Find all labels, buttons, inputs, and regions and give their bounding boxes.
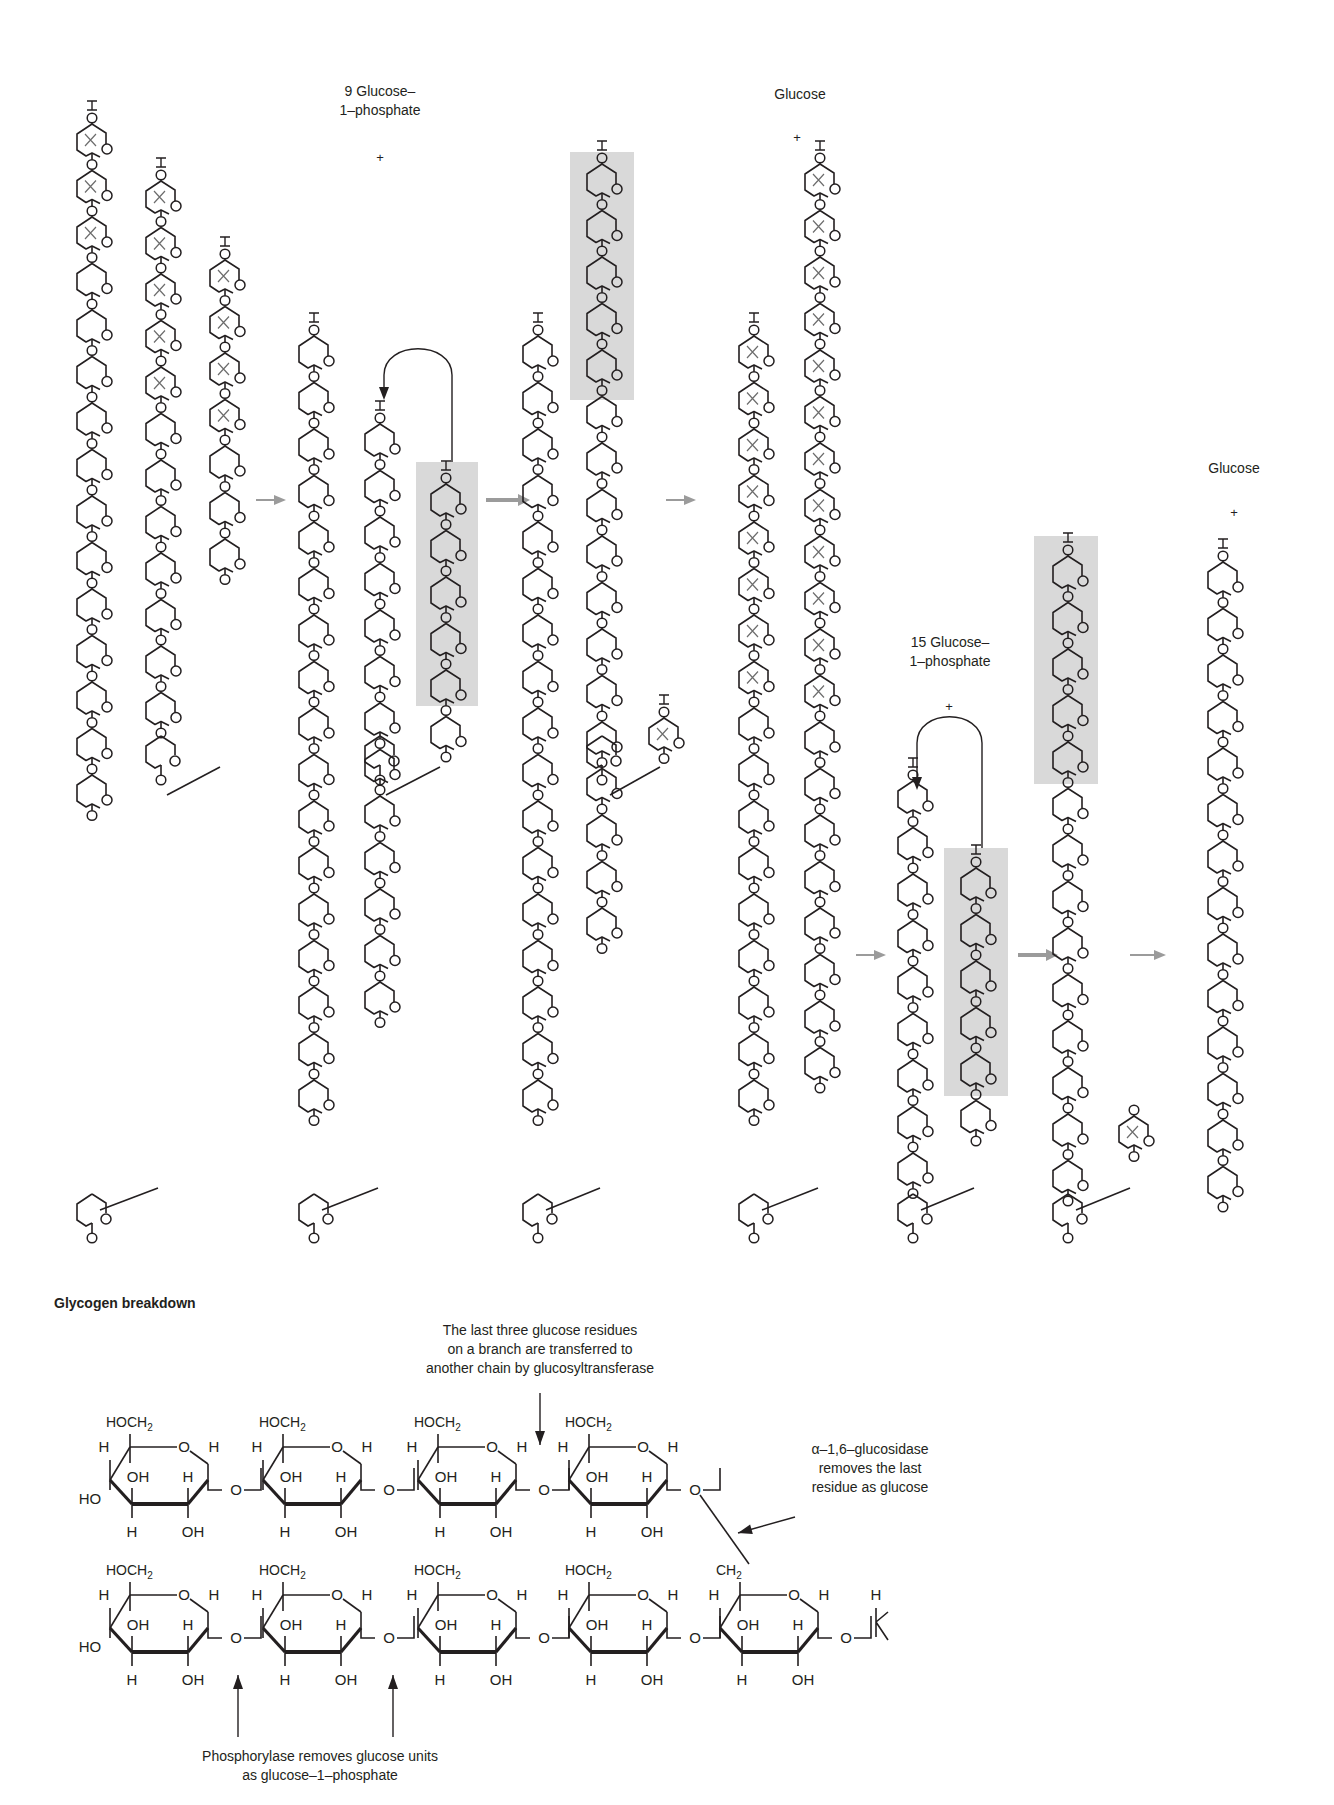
ring-bond bbox=[820, 211, 834, 231]
glucose-unit bbox=[739, 708, 774, 741]
glycosidic-oxygen bbox=[815, 339, 825, 349]
alpha-1-6-branch-bond bbox=[546, 1188, 600, 1210]
ring-oxygen bbox=[1233, 629, 1243, 639]
glycosidic-oxygen bbox=[309, 976, 319, 986]
glycosidic-oxygen bbox=[375, 553, 385, 563]
ring-oxygen bbox=[171, 480, 181, 490]
ring-bond bbox=[314, 476, 328, 496]
glucose-unit bbox=[523, 476, 558, 509]
ring-bond bbox=[739, 429, 762, 462]
oh-label: OH bbox=[435, 1616, 458, 1633]
ring-oxygen-label: O bbox=[486, 1586, 498, 1603]
ring-oxygen-label: O bbox=[178, 1438, 190, 1455]
annotation-line: as glucose–1–phosphate bbox=[160, 1766, 480, 1785]
glycosidic-oxygen bbox=[533, 930, 543, 940]
h-label: H bbox=[668, 1438, 679, 1455]
glycosidic-oxygen bbox=[597, 944, 607, 954]
ring-bond bbox=[1208, 981, 1231, 1014]
ring-bond bbox=[92, 496, 106, 516]
ring-bond bbox=[314, 1080, 328, 1100]
ring-bond bbox=[1208, 1027, 1231, 1060]
ring-oxygen bbox=[170, 756, 180, 766]
annotation-line: on a branch are transferred to bbox=[390, 1340, 690, 1359]
cross-mark bbox=[85, 227, 96, 239]
cross-mark bbox=[747, 672, 758, 684]
cross-mark bbox=[747, 439, 758, 451]
h-label: H bbox=[435, 1523, 446, 1540]
glucose-unit-marked bbox=[739, 336, 774, 369]
transferred-segment-highlight-1 bbox=[570, 152, 634, 400]
ring-bond bbox=[161, 414, 175, 434]
glucose-unit bbox=[587, 629, 622, 662]
ring-bond bbox=[146, 367, 169, 400]
ring-bond bbox=[898, 1153, 921, 1186]
ring-bond bbox=[1208, 748, 1231, 781]
glycosidic-oxygen bbox=[597, 572, 607, 582]
ring-bond bbox=[299, 755, 322, 788]
glycosidic-oxygen bbox=[749, 1023, 759, 1033]
ring-bond bbox=[77, 496, 100, 529]
ring-oxygen bbox=[102, 191, 112, 201]
ring-bond bbox=[754, 1194, 768, 1213]
glucose-unit bbox=[739, 1034, 774, 1067]
ring-bond bbox=[146, 646, 169, 679]
hydroxyl-oxygen bbox=[220, 249, 230, 259]
h-label: H bbox=[793, 1616, 804, 1633]
ring-oxygen bbox=[102, 470, 112, 480]
subscript: 2 bbox=[606, 1570, 612, 1581]
ring-oxygen bbox=[171, 341, 181, 351]
ring-bond bbox=[1223, 841, 1237, 861]
ring-bond bbox=[913, 1194, 927, 1213]
ring-oxygen bbox=[830, 277, 840, 287]
ring-bond bbox=[161, 460, 175, 480]
ring-oxygen bbox=[390, 630, 400, 640]
ring-oxygen bbox=[102, 563, 112, 573]
ring-bond bbox=[190, 1451, 208, 1464]
ring-bond bbox=[898, 1107, 921, 1140]
ring-oxygen bbox=[548, 1054, 558, 1064]
branch-point-stage3 bbox=[523, 1194, 557, 1243]
ring-bond bbox=[523, 941, 546, 974]
glycosidic-oxygen bbox=[1218, 1063, 1228, 1073]
ring-bond bbox=[805, 257, 828, 290]
ring-oxygen bbox=[390, 770, 400, 780]
ring-bond bbox=[602, 676, 616, 696]
glycosidic-oxygen bbox=[1063, 1010, 1073, 1020]
glycosidic-oxygen bbox=[156, 263, 166, 273]
ring-oxygen bbox=[923, 801, 933, 811]
ring-bond bbox=[587, 397, 610, 430]
alpha-1-6-branch-bond bbox=[1076, 1188, 1130, 1210]
glycosidic-oxygen bbox=[533, 697, 543, 707]
glycosidic-oxygen bbox=[1218, 1016, 1228, 1026]
ring-bond bbox=[225, 539, 239, 559]
ring-oxygen bbox=[1233, 908, 1243, 918]
ring-bond bbox=[225, 353, 239, 373]
glycosidic-bond bbox=[361, 1628, 375, 1638]
ring-bond bbox=[314, 894, 328, 914]
ring-bond bbox=[92, 310, 106, 330]
oh-label: OH bbox=[641, 1523, 664, 1540]
glycosidic-oxygen bbox=[908, 1049, 918, 1059]
ring-oxygen bbox=[548, 775, 558, 785]
subscript: 2 bbox=[606, 1422, 612, 1433]
ring-bond bbox=[587, 769, 610, 802]
glycosidic-oxygen bbox=[533, 744, 543, 754]
ring-bond bbox=[77, 729, 100, 762]
h-label: H bbox=[737, 1671, 748, 1688]
glucose-unit bbox=[805, 955, 840, 988]
glycosidic-oxygen bbox=[815, 851, 825, 861]
glycosidic-oxygen bbox=[375, 646, 385, 656]
ring-oxygen bbox=[1233, 861, 1243, 871]
ring-bond bbox=[820, 583, 834, 603]
ring-bond bbox=[602, 722, 616, 742]
ring-oxygen bbox=[390, 584, 400, 594]
ring-oxygen bbox=[548, 682, 558, 692]
glycosidic-oxygen bbox=[815, 665, 825, 675]
glucose-unit bbox=[739, 801, 774, 834]
glycosidic-oxygen bbox=[597, 618, 607, 628]
glucose-unit bbox=[210, 493, 245, 526]
ring-oxygen bbox=[324, 1007, 334, 1017]
glucose-unit bbox=[523, 615, 558, 648]
glycosidic-oxygen bbox=[1063, 964, 1073, 974]
ring-bond bbox=[523, 848, 546, 881]
